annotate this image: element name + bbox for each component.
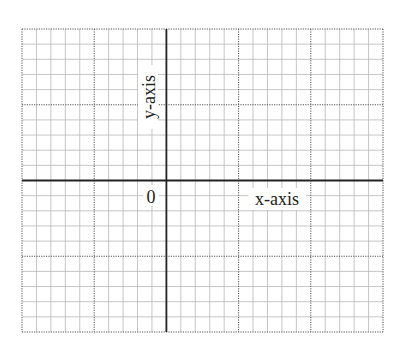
coordinate-grid: y-axis x-axis 0: [0, 0, 404, 352]
origin-label: 0: [147, 187, 156, 207]
x-axis-label: x-axis: [255, 189, 299, 209]
y-axis-label: y-axis: [139, 75, 159, 119]
